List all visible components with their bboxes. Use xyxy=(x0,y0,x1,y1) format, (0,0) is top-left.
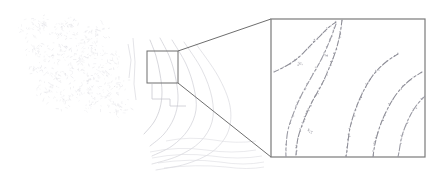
inset-speckle-blob xyxy=(298,62,299,63)
inset-speckle-blob xyxy=(311,131,312,132)
figure-canvas xyxy=(0,0,440,174)
inset-speckle-blob xyxy=(299,64,300,65)
inset-speckle-blob xyxy=(300,62,301,63)
inset-speckle-blob xyxy=(309,132,310,133)
inset-speckle-blob xyxy=(299,62,300,63)
inset-speckle-blob xyxy=(324,54,325,55)
inset-speckle-blob xyxy=(325,56,326,57)
inset-speckle-blob xyxy=(300,64,301,65)
inset-speckle-blob xyxy=(311,133,312,134)
magnified-inset[interactable] xyxy=(271,19,425,157)
inset-speckle-blob xyxy=(311,132,312,133)
inset-speckle-blob xyxy=(324,55,325,56)
inset-speckle-blob xyxy=(312,131,313,132)
inset-speckle-blob xyxy=(308,129,309,130)
inset-speckle-blob xyxy=(302,64,303,65)
inset-speckle-blob xyxy=(308,130,309,131)
figure-container xyxy=(0,0,440,174)
inset-speckle-blob xyxy=(325,54,326,55)
inset-speckle-blob xyxy=(327,54,328,55)
inset-speckle-blob xyxy=(297,65,298,66)
inset-speckle-blob xyxy=(310,130,311,131)
inset-speckle-blob xyxy=(327,55,328,56)
